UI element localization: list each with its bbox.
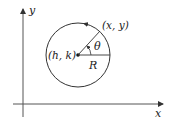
x-axis-label: x	[155, 107, 162, 120]
center-label: (h, k)	[48, 49, 76, 61]
radius-label: R	[88, 59, 97, 72]
angle-arc	[87, 46, 91, 55]
y-axis-label: y	[28, 4, 36, 17]
direction-arrow-icon	[84, 24, 88, 25]
angle-label: θ	[94, 40, 101, 53]
circle-diagram: y x (h, k) (x, y) θ R	[0, 0, 169, 123]
point-label: (x, y)	[102, 19, 129, 31]
